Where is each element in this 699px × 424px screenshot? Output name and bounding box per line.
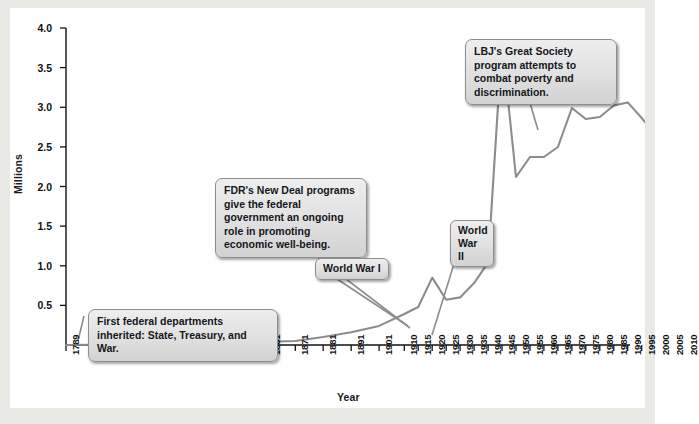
x-tick-label: 1871 bbox=[299, 335, 310, 355]
x-tick-label: 1945 bbox=[506, 335, 517, 355]
y-axis-ticks bbox=[60, 28, 66, 305]
x-tick-label: 1965 bbox=[562, 335, 573, 355]
x-tick-label: 1789 bbox=[70, 335, 81, 355]
leader-lbj bbox=[530, 103, 538, 130]
x-tick-label: 1955 bbox=[534, 335, 545, 355]
x-tick-label: 1960 bbox=[548, 335, 559, 355]
annotation-world-war-2: World War II bbox=[450, 220, 494, 267]
y-tick-label: 4.0 bbox=[18, 22, 52, 34]
x-tick-label: 1975 bbox=[590, 335, 601, 355]
y-tick-label: 1.0 bbox=[18, 260, 52, 272]
y-tick-label: 0.5 bbox=[18, 299, 52, 311]
annotation-lbj-great-society: LBJ's Great Society program attempts to … bbox=[465, 39, 617, 105]
chart-panel: Millions Year 4.0 3.5 3.0 2.5 2.0 1.5 1.… bbox=[10, 8, 645, 408]
x-axis-label: Year bbox=[337, 391, 360, 403]
y-tick-label: 3.5 bbox=[18, 62, 52, 74]
x-tick-label: 1950 bbox=[520, 335, 531, 355]
x-tick-label: 2000 bbox=[660, 335, 671, 355]
x-tick-label: 1930 bbox=[464, 335, 475, 355]
annotation-first-federal-departments: First federal departments inherited: Sta… bbox=[88, 309, 278, 362]
x-tick-label: 1891 bbox=[355, 335, 366, 355]
y-tick-label: 1.5 bbox=[18, 220, 52, 232]
annotation-world-war-1: World War I bbox=[315, 258, 389, 280]
x-tick-label: 1925 bbox=[450, 335, 461, 355]
x-tick-label: 1995 bbox=[646, 335, 657, 355]
x-tick-label: 1920 bbox=[436, 335, 447, 355]
annotation-ww2-line-2: War II bbox=[458, 237, 486, 263]
x-tick-label: 1990 bbox=[632, 335, 643, 355]
y-tick-label: 2.5 bbox=[18, 141, 52, 153]
x-tick-label: 1980 bbox=[604, 335, 615, 355]
x-tick-label: 1970 bbox=[576, 335, 587, 355]
x-tick-label: 1940 bbox=[492, 335, 503, 355]
y-tick-label: 2.0 bbox=[18, 181, 52, 193]
x-tick-label: 1915 bbox=[422, 335, 433, 355]
x-tick-label: 2010 bbox=[688, 335, 699, 355]
x-tick-label: 1910 bbox=[408, 335, 419, 355]
x-tick-label: 1901 bbox=[383, 335, 394, 355]
y-tick-label: 3.0 bbox=[18, 101, 52, 113]
x-tick-label: 1985 bbox=[618, 335, 629, 355]
x-tick-label: 1881 bbox=[327, 335, 338, 355]
annotation-ww2-line-1: World bbox=[458, 224, 486, 237]
x-tick-label: 1935 bbox=[478, 335, 489, 355]
annotation-fdr-new-deal: FDR's New Deal programs give the federal… bbox=[215, 178, 367, 258]
x-tick-label: 2005 bbox=[674, 335, 685, 355]
